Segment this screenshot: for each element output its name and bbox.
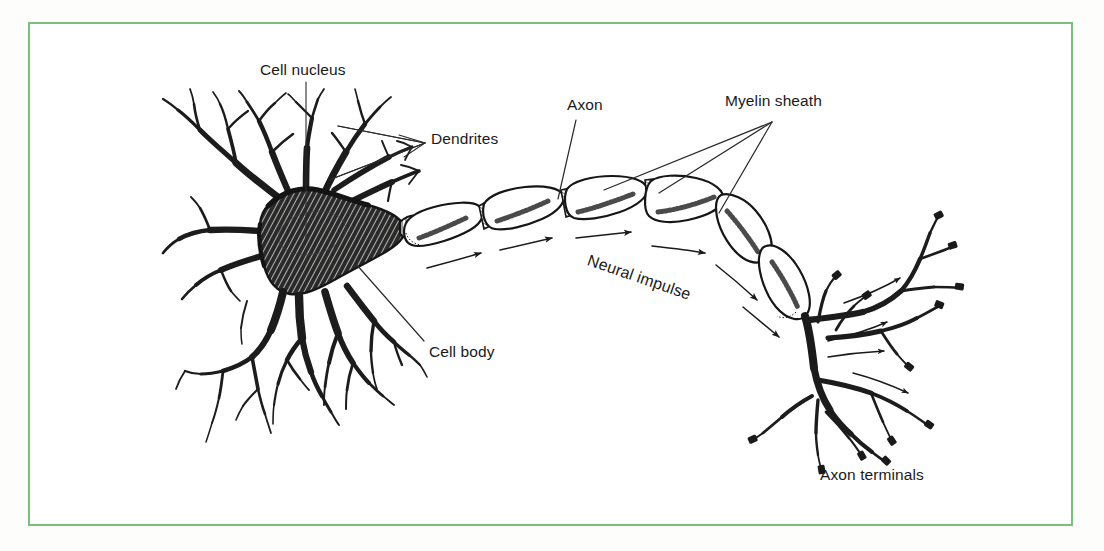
myelin-segment-3 xyxy=(565,176,647,219)
myelin-segment-4 xyxy=(645,176,723,222)
leader-myelin-c xyxy=(719,122,772,213)
leader-myelin-b xyxy=(659,122,772,193)
dendrites-left xyxy=(163,197,272,344)
figure-canvas: Cell nucleus Dendrites Axon Myelin sheat… xyxy=(0,0,1104,551)
myelin-segment-2 xyxy=(483,186,563,229)
label-axon-terminals: Axon terminals xyxy=(820,467,924,483)
label-cell-nucleus: Cell nucleus xyxy=(260,62,346,78)
myelin-sheath-segments xyxy=(404,176,810,320)
myelin-segment-1 xyxy=(404,203,483,246)
neural-impulse-arrows xyxy=(427,232,908,393)
label-dendrites: Dendrites xyxy=(431,131,498,147)
label-axon: Axon xyxy=(567,97,603,113)
label-myelin-sheath: Myelin sheath xyxy=(725,93,822,109)
label-cell-body: Cell body xyxy=(429,344,495,360)
cell-body-soma xyxy=(259,189,405,295)
neuron-illustration xyxy=(0,0,1104,551)
myelin-segment-6 xyxy=(759,245,810,319)
leader-cell-body xyxy=(356,264,424,341)
dendrites-lower xyxy=(176,286,427,442)
